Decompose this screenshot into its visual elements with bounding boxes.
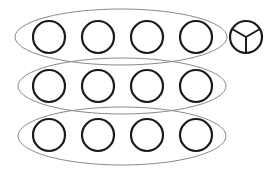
group-2 bbox=[18, 58, 226, 114]
sector-divider bbox=[246, 29, 260, 37]
circle bbox=[82, 70, 114, 102]
circle bbox=[33, 119, 65, 151]
group-3 bbox=[18, 107, 226, 165]
divided-circle bbox=[230, 21, 262, 53]
sector-divider bbox=[232, 29, 246, 37]
group-ellipse bbox=[18, 58, 226, 114]
group-ellipse bbox=[15, 9, 227, 65]
circle bbox=[33, 21, 65, 53]
circle bbox=[180, 119, 212, 151]
circle bbox=[131, 119, 163, 151]
grouping-diagram bbox=[0, 0, 279, 174]
circle bbox=[82, 119, 114, 151]
circle bbox=[33, 70, 65, 102]
circle bbox=[82, 21, 114, 53]
circle bbox=[131, 21, 163, 53]
group-ellipse bbox=[18, 107, 226, 165]
circle bbox=[131, 70, 163, 102]
circle bbox=[180, 70, 212, 102]
group-1 bbox=[15, 9, 227, 65]
circle bbox=[180, 21, 212, 53]
